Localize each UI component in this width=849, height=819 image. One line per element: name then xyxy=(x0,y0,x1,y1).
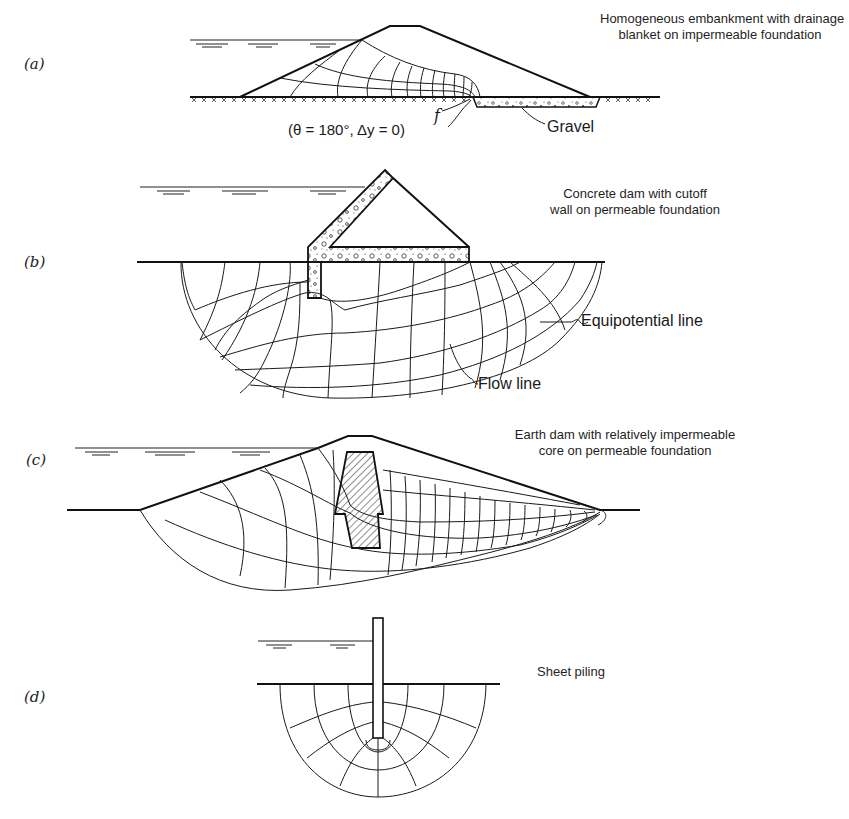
water-surface-icon xyxy=(140,187,365,194)
panel-a-drawing xyxy=(190,26,660,127)
callout-equipotential-line: Equipotential line xyxy=(581,312,703,330)
caption-panel-c: Earth dam with relatively impermeable co… xyxy=(475,427,775,459)
callout-f: f xyxy=(434,106,440,125)
flow-net-figure xyxy=(0,0,849,819)
callout-flow-line: Flow line xyxy=(478,375,541,393)
impermeable-core xyxy=(335,452,383,548)
water-surface-icon xyxy=(190,40,362,47)
panel-d-drawing xyxy=(257,618,500,797)
panel-label-c: (c) xyxy=(26,451,46,469)
sheet-pile xyxy=(373,618,383,738)
caption-line: Concrete dam with cutoff xyxy=(525,186,745,202)
water-surface-icon xyxy=(75,448,318,455)
caption-panel-b: Concrete dam with cutoff wall on permeab… xyxy=(525,186,745,218)
caption-panel-d: Sheet piling xyxy=(526,664,616,680)
panel-c-drawing xyxy=(67,436,640,590)
caption-panel-a: Homogeneous embankment with drainage bla… xyxy=(600,11,840,43)
panel-label-b: (b) xyxy=(24,253,45,271)
callout-gravel: Gravel xyxy=(547,118,594,136)
caption-line: Earth dam with relatively impermeable xyxy=(475,427,775,443)
callout-condition: (θ = 180°, Δy = 0) xyxy=(288,121,405,138)
panel-label-d: (d) xyxy=(24,688,45,706)
caption-line: wall on permeable foundation xyxy=(525,202,745,218)
water-surface-icon xyxy=(258,641,373,648)
flow-net-a xyxy=(280,40,480,97)
gravel-drainage-blanket xyxy=(473,97,600,107)
caption-line: core on permeable foundation xyxy=(475,443,775,459)
caption-line: blanket on impermeable foundation xyxy=(600,27,840,43)
panel-label-a: (a) xyxy=(24,55,45,73)
caption-line: Homogeneous embankment with drainage xyxy=(600,11,840,27)
caption-line: Sheet piling xyxy=(526,664,616,680)
